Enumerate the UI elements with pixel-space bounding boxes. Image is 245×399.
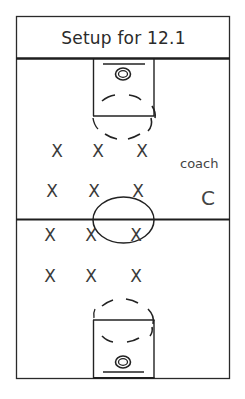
player-marker: X (130, 227, 142, 244)
player-marker: X (130, 268, 142, 285)
player-marker: X (136, 143, 148, 160)
player-marker: X (92, 143, 104, 160)
coach-marker: C (201, 186, 215, 210)
player-marker: X (44, 227, 56, 244)
player-marker: X (51, 143, 63, 160)
top-key (93, 59, 155, 139)
player-marker: X (46, 183, 58, 200)
player-marker: X (85, 227, 97, 244)
bottom-rim-icon (116, 356, 131, 368)
player-marker: X (132, 183, 144, 200)
player-marker: X (88, 183, 100, 200)
player-marker: X (44, 268, 56, 285)
bottom-key (93, 299, 155, 378)
diagram-title: Setup for 12.1 (17, 17, 230, 58)
player-marker: X (85, 268, 97, 285)
top-rim-icon (116, 68, 131, 80)
coach-label: coach (180, 156, 218, 171)
